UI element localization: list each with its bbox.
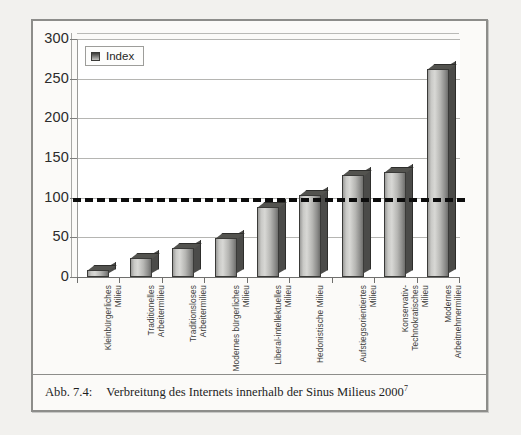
bar-front-face	[215, 238, 237, 277]
y-axis-tick-mark	[70, 237, 77, 238]
y-axis-tick-mark	[70, 158, 77, 159]
bar-slot	[162, 39, 204, 277]
x-axis-ticks	[77, 277, 459, 283]
y-axis-tick-mark	[70, 118, 77, 119]
caption-number: Abb. 7.4:	[45, 385, 92, 400]
bar-side-face	[406, 163, 413, 273]
x-axis-tick	[247, 277, 248, 283]
y-axis-tick-mark	[70, 79, 77, 80]
bar-side-face	[364, 167, 371, 273]
x-axis-category-label: Traditionelles Arbeitermilieu	[146, 285, 166, 373]
x-axis-tick	[459, 277, 460, 283]
x-axis-tick	[77, 277, 78, 283]
bar-slot	[247, 39, 289, 277]
bar[interactable]	[427, 69, 449, 277]
figure-caption: Abb. 7.4: Verbreitung des Internets inne…	[33, 374, 486, 410]
bar-side-face	[279, 199, 286, 273]
bar-slot	[77, 39, 119, 277]
bar-front-face	[130, 258, 152, 277]
bar-slot	[204, 39, 246, 277]
bar[interactable]	[172, 248, 194, 277]
bar[interactable]	[257, 207, 279, 277]
x-axis-category-label: Modernes bürgerliches Milieu	[231, 285, 251, 373]
bar-front-face	[384, 172, 406, 278]
x-axis-tick	[417, 277, 418, 283]
x-axis-category-label: Konservativ- Technokratisches Milieu	[400, 285, 430, 373]
bar-front-face	[257, 207, 279, 277]
bar-front-face	[172, 248, 194, 277]
bar-series-index	[77, 39, 459, 277]
y-axis-tick-label: 50	[52, 228, 69, 244]
chart-region: 050100150200250300 Kleinbürgerliches Mil…	[33, 21, 486, 374]
x-axis-category-label: Aufstiegsorientiertes Milieu	[358, 285, 378, 373]
x-axis-tick	[204, 277, 205, 283]
legend-swatch-icon	[91, 52, 100, 61]
y-axis-tick-label: 150	[44, 149, 69, 165]
figure-frame: 050100150200250300 Kleinbürgerliches Mil…	[31, 19, 488, 412]
bar-slot	[119, 39, 161, 277]
bar-slot	[417, 39, 459, 277]
x-axis-labels: Kleinbürgerliches MilieuTraditionelles A…	[77, 285, 465, 373]
y-axis-tick-label: 100	[44, 189, 69, 205]
bar-slot	[374, 39, 416, 277]
x-axis-category-label: Liberal-intellektuelles Milieu	[273, 285, 293, 373]
plot-backwall-left-edge	[71, 33, 72, 277]
y-axis-tick-mark	[70, 39, 77, 40]
caption-body: Verbreitung des Internets innerhalb der …	[106, 385, 404, 399]
x-axis-tick	[162, 277, 163, 283]
bar-front-face	[342, 175, 364, 277]
bar[interactable]	[130, 258, 152, 277]
bar-front-face	[299, 195, 321, 278]
bar-slot	[289, 39, 331, 277]
caption-text: Verbreitung des Internets innerhalb der …	[106, 384, 408, 400]
bar[interactable]	[215, 238, 237, 277]
x-axis-tick	[374, 277, 375, 283]
x-axis-category-label: Hedonistische Milieu	[315, 285, 325, 373]
x-axis-category-label: Modernes Arbeitnehmermilieu	[443, 285, 463, 373]
y-axis-tick-label: 300	[44, 30, 69, 46]
plot-backwall-top-edge	[77, 33, 459, 34]
bar[interactable]	[342, 175, 364, 277]
caption-footnote-marker: 7	[404, 384, 408, 393]
x-axis-category-label: Traditionsloses Arbeitermilieu	[188, 285, 208, 373]
y-axis-tick-label: 0	[61, 268, 69, 284]
y-axis-tick-label: 250	[44, 70, 69, 86]
bar[interactable]	[87, 270, 109, 277]
y-axis-tick-label: 200	[44, 109, 69, 125]
x-axis-tick	[119, 277, 120, 283]
y-axis: 050100150200250300	[33, 39, 69, 277]
bar-front-face	[427, 69, 449, 277]
bar-side-face	[449, 61, 456, 273]
legend-label: Index	[106, 50, 134, 62]
bar-front-face	[87, 270, 109, 277]
x-axis-tick	[332, 277, 333, 283]
chart-legend: Index	[85, 46, 144, 66]
bar-slot	[332, 39, 374, 277]
x-axis-tick	[289, 277, 290, 283]
bar[interactable]	[384, 172, 406, 278]
x-axis-category-label: Kleinbürgerliches Milieu	[103, 285, 123, 373]
bar[interactable]	[299, 195, 321, 278]
reference-line-100	[73, 198, 465, 202]
y-axis-tick-mark	[70, 277, 77, 278]
document-page: 050100150200250300 Kleinbürgerliches Mil…	[0, 0, 521, 435]
